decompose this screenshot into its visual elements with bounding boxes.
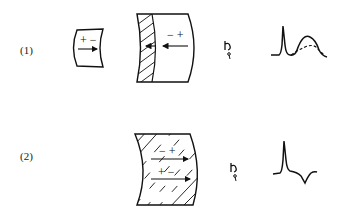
diagram-canvas: + − − +	[0, 0, 339, 210]
row-1-electrode-icon	[225, 41, 230, 59]
row-2-ecg-trace	[273, 141, 317, 183]
row-2-block-charges-bottom: + −	[158, 165, 175, 179]
row-1-small-block-charges: + −	[80, 33, 97, 47]
row-2-block-charges-top: − +	[159, 144, 176, 158]
row-2-electrode-icon	[231, 163, 236, 181]
row-1-large-block-charges: − +	[167, 28, 184, 42]
row-1-large-block: − +	[130, 8, 194, 100]
row-2-block: − + + −	[120, 128, 205, 208]
row-1-ecg-trace	[271, 26, 327, 57]
row-1-small-block: + −	[74, 29, 104, 67]
